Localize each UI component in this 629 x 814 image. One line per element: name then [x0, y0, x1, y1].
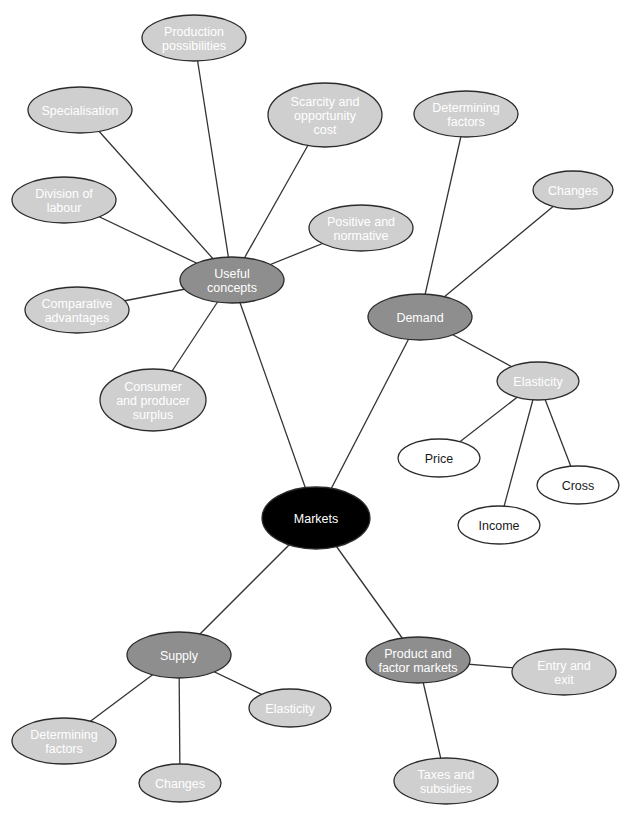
node-production-possibilities: Productionpossibilities: [142, 15, 246, 61]
node-label: Specialisation: [41, 104, 118, 118]
node-label: concepts: [207, 281, 257, 295]
node-label: Division of: [35, 187, 93, 201]
node-product-and-factor-markets: Product andfactor markets: [366, 637, 470, 683]
node-price: Price: [398, 439, 480, 477]
node-label: Changes: [155, 777, 205, 791]
node-label: Comparative: [42, 297, 113, 311]
node-income: Income: [458, 506, 540, 544]
node-label: Elasticity: [513, 375, 563, 389]
node-label: Markets: [294, 512, 338, 526]
node-label: factors: [447, 115, 485, 129]
node-label: cost: [314, 123, 337, 137]
node-label: subsidies: [420, 782, 472, 796]
node-supply-elasticity: Elasticity: [249, 689, 331, 727]
node-taxes-and-subsidies: Taxes andsubsidies: [394, 758, 498, 804]
node-demand-changes: Changes: [533, 171, 613, 209]
node-supply: Supply: [127, 632, 231, 678]
node-supply-changes: Changes: [139, 764, 221, 802]
node-label: Determining: [432, 101, 499, 115]
node-label: Supply: [160, 649, 199, 663]
node-specialisation: Specialisation: [28, 87, 132, 133]
node-supply-determining-factors: Determiningfactors: [12, 718, 116, 764]
node-entry-and-exit: Entry andexit: [512, 649, 616, 695]
node-label: Entry and: [537, 659, 591, 673]
node-label: opportunity: [294, 109, 357, 123]
node-label: Changes: [548, 184, 598, 198]
node-label: Taxes and: [418, 768, 475, 782]
node-useful-concepts: Usefulconcepts: [180, 257, 284, 303]
node-label: Useful: [214, 267, 249, 281]
node-label: Demand: [396, 311, 443, 325]
node-label: Price: [425, 452, 454, 466]
edge-demand-elasticity-to-income: [499, 381, 538, 525]
node-demand-determining-factors: Determiningfactors: [414, 91, 518, 137]
node-markets: Markets: [262, 487, 370, 549]
node-cross: Cross: [537, 466, 619, 504]
node-label: Positive and: [327, 215, 395, 229]
node-label: labour: [47, 201, 82, 215]
node-demand-elasticity: Elasticity: [497, 362, 579, 400]
node-consumer-and-producer-surplus: Consumerand producersurplus: [100, 369, 206, 431]
node-label: exit: [554, 673, 574, 687]
node-label: factor markets: [378, 661, 457, 675]
nodes-layer: MarketsUsefulconceptsDemandSupplyProduct…: [12, 15, 619, 804]
edge-demand-to-demand-determining-factors: [420, 114, 466, 317]
node-label: Scarcity and: [291, 95, 360, 109]
node-label: Product and: [384, 647, 451, 661]
node-division-of-labour: Division oflabour: [12, 177, 116, 223]
node-demand: Demand: [368, 294, 472, 340]
node-label: possibilities: [162, 39, 226, 53]
edge-markets-to-useful-concepts: [232, 280, 316, 518]
node-label: advantages: [45, 311, 110, 325]
node-label: Determining: [30, 728, 97, 742]
node-label: Production: [164, 25, 224, 39]
node-label: Consumer: [124, 380, 182, 394]
mind-map-canvas: MarketsUsefulconceptsDemandSupplyProduct…: [0, 0, 629, 814]
node-label: factors: [45, 742, 83, 756]
node-positive-and-normative: Positive andnormative: [309, 205, 413, 251]
node-label: surplus: [133, 408, 173, 422]
node-label: normative: [334, 229, 389, 243]
node-comparative-advantages: Comparativeadvantages: [25, 287, 129, 333]
node-label: Income: [479, 519, 520, 533]
node-label: and producer: [116, 394, 190, 408]
node-label: Cross: [562, 479, 595, 493]
node-scarcity-and-opportunity-cost: Scarcity andopportunitycost: [268, 83, 382, 147]
node-label: Elasticity: [265, 702, 315, 716]
